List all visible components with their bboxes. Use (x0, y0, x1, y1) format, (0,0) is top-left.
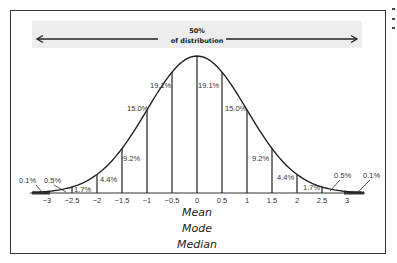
tick-label: 0.5 (217, 196, 227, 205)
pct-label: 1.7% (303, 183, 320, 192)
edge-mark (392, 8, 395, 10)
pct-label: 0.1% (363, 171, 380, 180)
mean-label: Mean (147, 206, 247, 219)
pct-label: 4.4% (100, 175, 117, 184)
tick-label: −1 (143, 196, 152, 205)
pct-label: 9.2% (252, 154, 269, 163)
annotation-line1: 50% (189, 27, 205, 35)
tick-label: −1.5 (115, 196, 130, 205)
tick-label: 1 (245, 196, 249, 205)
pct-label: 4.4% (277, 173, 294, 182)
tick-label: 3 (345, 196, 349, 205)
pct-label: 19.1% (150, 81, 172, 90)
tick-label: 0 (195, 196, 199, 205)
tick-label: 2 (295, 196, 299, 205)
tick-label: 1.5 (267, 196, 277, 205)
pct-label: 15.0% (225, 104, 247, 113)
pct-label: 9.2% (123, 154, 140, 163)
median-label: Median (147, 238, 247, 251)
tick-label: −2 (93, 196, 102, 205)
pct-label: 0.1% (19, 176, 36, 185)
mode-label: Mode (147, 222, 247, 235)
leader-line (36, 185, 42, 192)
pct-label: 0.5% (44, 176, 61, 185)
tick-label: −0.5 (165, 196, 180, 205)
edge-mark (392, 27, 395, 29)
tick-label: −3 (43, 196, 52, 205)
annotation-line2: of distribution (171, 37, 224, 45)
pct-label: 1.7% (74, 185, 91, 194)
x-axis-ticks: −3−2.5−2−1.5−1−0.500.511.522.53 (43, 196, 349, 205)
pct-label: 19.1% (198, 81, 220, 90)
tick-label: −2.5 (65, 196, 80, 205)
tick-label: 2.5 (317, 196, 327, 205)
pct-label: 0.5% (334, 171, 351, 180)
edge-mark (392, 18, 395, 20)
pct-label: 15.0% (127, 104, 149, 113)
leader-line (358, 180, 370, 192)
